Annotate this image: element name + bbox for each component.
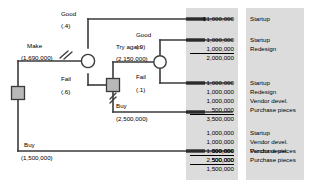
branch-label-good-2: Good xyxy=(136,32,151,38)
decision-square-fail xyxy=(107,79,120,92)
branch-label-fail-1: Fail xyxy=(61,76,71,82)
payoff-amount: 1,000,000 xyxy=(190,130,234,136)
branch-value-good-2: (.9) xyxy=(136,44,145,50)
payoff-amount: 1,000,000 xyxy=(190,139,234,145)
payoff-category: Vendor devel. xyxy=(250,148,288,154)
chance-circle-try-again xyxy=(154,56,166,68)
branch-value-make: (1,690,000) xyxy=(21,55,53,61)
payoff-category: Purchase pieces xyxy=(250,157,296,163)
payoff-category: Startup xyxy=(250,130,270,136)
payoff-category: Redesign xyxy=(250,89,276,95)
payoff-total: 3,500,000 xyxy=(190,116,234,122)
decision-square-root xyxy=(12,87,25,100)
payoff-amount: 1,000,000 xyxy=(190,148,234,154)
payoff-amount: 1,000,000 xyxy=(190,37,234,43)
branch-label-make: Make xyxy=(27,43,42,49)
payoff-amount: 500,000 xyxy=(190,157,234,165)
branch-label-buy-root: Buy xyxy=(24,142,35,148)
payoff-amount: 1,000,000 xyxy=(190,46,234,54)
branch-value-buy-inner: (2,500,000) xyxy=(116,116,148,122)
branch-label-good-1: Good xyxy=(61,11,76,17)
payoff-category: Startup xyxy=(250,16,270,22)
payoff-amount: $1,000,000 xyxy=(190,16,234,22)
decision-tree-diagram: Make (1,690,000) Good (.4) Fail (.6) Try… xyxy=(0,0,312,184)
payoff-total: 2,000,000 xyxy=(190,55,234,61)
payoff-amount: 1,000,000 xyxy=(190,98,234,104)
chance-circle-make xyxy=(81,54,94,67)
payoff-category: Vendor devel. xyxy=(250,98,288,104)
payoff-amount: 500,000 xyxy=(190,107,234,115)
payoff-category: Vendor devel. xyxy=(250,139,288,145)
branch-label-fail-2: Fail xyxy=(136,74,146,80)
payoff-total: 1,500,000 xyxy=(190,166,234,172)
payoff-amount: 1,000,000 xyxy=(190,80,234,86)
branch-value-buy-root: (1,500,000) xyxy=(21,155,53,161)
branch-value-good-1: (.4) xyxy=(61,23,70,29)
payoff-category: Purchase pieces xyxy=(250,107,296,113)
branch-value-try-again: (2,150,000) xyxy=(116,56,148,62)
branch-value-fail-1: (.6) xyxy=(61,89,70,95)
branch-value-fail-2: (.1) xyxy=(136,87,145,93)
payoff-category: Redesign xyxy=(250,46,276,52)
payoff-category: Startup xyxy=(250,37,270,43)
payoff-amount: 1,000,000 xyxy=(190,89,234,95)
payoff-category: Startup xyxy=(250,80,270,86)
branch-label-buy-inner: Buy xyxy=(116,103,127,109)
